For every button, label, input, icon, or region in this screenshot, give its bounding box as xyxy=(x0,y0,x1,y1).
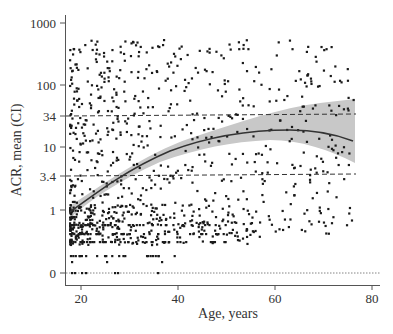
y-axis-ticks: 100010034103.410 xyxy=(30,16,65,281)
x-tick-label: 80 xyxy=(366,291,379,306)
y-tick-label: 1000 xyxy=(30,16,56,31)
x-tick-label: 20 xyxy=(75,291,88,306)
x-tick-label: 40 xyxy=(172,291,185,306)
reference-line-3-4 xyxy=(66,174,356,176)
y-tick-label: 3.4 xyxy=(40,169,57,184)
y-axis-title: ACR, mean (CI) xyxy=(9,103,25,196)
y-tick-label: 0 xyxy=(50,266,57,281)
y-tick-label: 100 xyxy=(37,78,57,93)
scatter-chart: 100010034103.410 20406080 Age, years ACR… xyxy=(0,0,393,334)
x-axis-title: Age, years xyxy=(198,306,258,321)
x-tick-label: 60 xyxy=(269,291,282,306)
y-tick-label: 1 xyxy=(50,203,57,218)
y-tick-label: 10 xyxy=(43,140,56,155)
scatter-points xyxy=(69,39,355,274)
x-axis-ticks: 20406080 xyxy=(75,285,379,306)
y-tick-label: 34 xyxy=(43,109,57,124)
